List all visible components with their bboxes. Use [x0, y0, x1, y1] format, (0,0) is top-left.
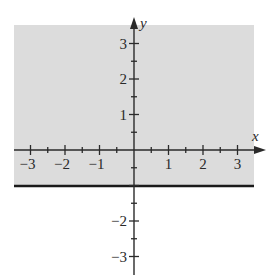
x-axis-label: x [251, 128, 259, 144]
tick-label: −3 [20, 156, 36, 172]
tick-label: 2 [120, 71, 128, 87]
tick-label: −2 [54, 156, 70, 172]
tick-label: −3 [111, 249, 127, 265]
y-axis-label: y [138, 15, 147, 31]
tick-label: 1 [120, 107, 128, 123]
tick-label: 3 [120, 36, 128, 52]
tick-label: −1 [89, 156, 105, 172]
tick-label: 2 [199, 156, 207, 172]
y-axis-arrow-icon [130, 17, 138, 29]
tick-label: 3 [234, 156, 242, 172]
tick-label: −2 [111, 213, 127, 229]
x-axis-arrow-icon [254, 146, 266, 154]
tick-label: 1 [165, 156, 173, 172]
inequality-graph: −3−2−1123−3−2123 x y [0, 0, 274, 275]
